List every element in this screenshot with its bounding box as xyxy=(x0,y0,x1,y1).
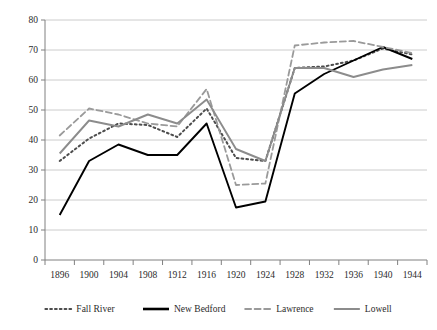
x-tick-label: 1940 xyxy=(373,270,392,280)
y-tick-label: 70 xyxy=(29,45,39,55)
x-tick-label: 1904 xyxy=(109,270,128,280)
legend-item-lawrence[interactable]: Lawrence xyxy=(245,304,313,314)
y-tick-labels: 01020304050607080 xyxy=(29,15,39,265)
x-tick-labels: 1896190019041908191219161920192419281932… xyxy=(50,270,422,280)
chart-canvas: 01020304050607080 1896190019041908191219… xyxy=(0,0,437,330)
series-line-fall-river xyxy=(60,49,413,162)
x-tick-label: 1944 xyxy=(403,270,422,280)
x-tick-label: 1928 xyxy=(285,270,304,280)
y-tick-label: 50 xyxy=(29,105,39,115)
legend-label: Fall River xyxy=(76,304,115,314)
line-chart: 01020304050607080 1896190019041908191219… xyxy=(0,0,437,330)
y-tick-label: 10 xyxy=(29,225,39,235)
y-tick-label: 30 xyxy=(29,165,39,175)
grid-lines xyxy=(45,20,427,260)
y-tick-label: 0 xyxy=(33,255,38,265)
legend-item-fall-river[interactable]: Fall River xyxy=(45,304,115,314)
legend-label: Lawrence xyxy=(276,304,313,314)
legend-label: New Bedford xyxy=(174,304,226,314)
x-tick-label: 1900 xyxy=(80,270,99,280)
data-series xyxy=(60,41,413,215)
chart-legend: Fall RiverNew BedfordLawrenceLowell xyxy=(45,304,392,314)
x-tick-label: 1896 xyxy=(50,270,69,280)
legend-item-lowell[interactable]: Lowell xyxy=(334,304,392,314)
x-tick-label: 1936 xyxy=(344,270,363,280)
x-tick-label: 1916 xyxy=(197,270,216,280)
x-tick-label: 1908 xyxy=(138,270,157,280)
y-tick-label: 40 xyxy=(29,135,39,145)
x-axis xyxy=(45,260,427,265)
x-tick-label: 1920 xyxy=(227,270,246,280)
y-tick-label: 20 xyxy=(29,195,39,205)
y-tick-label: 60 xyxy=(29,75,39,85)
x-tick-label: 1912 xyxy=(168,270,187,280)
series-line-lawrence xyxy=(60,41,413,185)
series-line-new-bedford xyxy=(60,47,413,215)
legend-item-new-bedford[interactable]: New Bedford xyxy=(143,304,226,314)
y-axis xyxy=(41,20,45,260)
x-tick-label: 1932 xyxy=(315,270,334,280)
y-tick-label: 80 xyxy=(29,15,39,25)
x-tick-label: 1924 xyxy=(256,270,275,280)
legend-label: Lowell xyxy=(365,304,392,314)
